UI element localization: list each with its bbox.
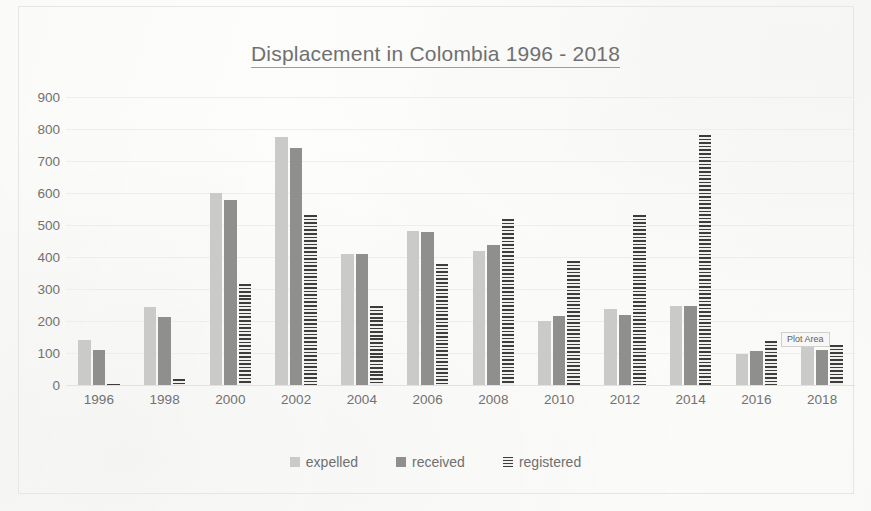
y-axis-tick-label: 800 bbox=[18, 122, 60, 137]
bar-expelled-2016[interactable] bbox=[736, 354, 749, 385]
legend-swatch-registered-icon bbox=[503, 457, 513, 467]
bar-group bbox=[144, 97, 186, 385]
bar-expelled-1996[interactable] bbox=[78, 340, 91, 385]
bar-expelled-1998[interactable] bbox=[144, 307, 157, 385]
bar-group bbox=[670, 97, 712, 385]
bar-group bbox=[736, 97, 778, 385]
bar-received-2010[interactable] bbox=[553, 316, 566, 385]
x-axis-tick-label: 2010 bbox=[544, 392, 574, 407]
bar-received-2014[interactable] bbox=[684, 306, 697, 385]
bar-group bbox=[341, 97, 383, 385]
bar-group bbox=[210, 97, 252, 385]
bar-registered-2004[interactable] bbox=[370, 306, 383, 385]
legend-item-expelled[interactable]: expelled bbox=[290, 454, 358, 470]
x-axis-tick-label: 2014 bbox=[676, 392, 706, 407]
x-axis-tick-label: 2008 bbox=[478, 392, 508, 407]
bar-expelled-2000[interactable] bbox=[210, 193, 223, 385]
legend-item-received[interactable]: received bbox=[396, 454, 465, 470]
bar-registered-2006[interactable] bbox=[436, 264, 449, 385]
y-axis-tick-label: 600 bbox=[18, 186, 60, 201]
chart-title-text: Displacement in Colombia 1996 - 2018 bbox=[251, 42, 620, 68]
bar-received-2018[interactable] bbox=[816, 350, 829, 385]
x-axis-tick-label: 2002 bbox=[281, 392, 311, 407]
bar-received-2002[interactable] bbox=[290, 148, 303, 385]
bar-registered-2018[interactable] bbox=[830, 345, 843, 385]
bar-registered-2014[interactable] bbox=[699, 135, 712, 385]
x-axis-tick-label: 2000 bbox=[215, 392, 245, 407]
legend-label: received bbox=[412, 454, 465, 470]
bar-registered-2008[interactable] bbox=[502, 219, 515, 385]
y-axis: 9008007006005004003002001000 bbox=[12, 97, 60, 385]
bar-group bbox=[604, 97, 646, 385]
y-axis-tick-label: 300 bbox=[18, 282, 60, 297]
bar-expelled-2006[interactable] bbox=[407, 231, 420, 385]
bar-registered-2000[interactable] bbox=[239, 284, 252, 385]
x-axis-tick-label: 2016 bbox=[741, 392, 771, 407]
legend-item-registered[interactable]: registered bbox=[503, 454, 581, 470]
legend-swatch-received-icon bbox=[396, 457, 406, 467]
bar-registered-2012[interactable] bbox=[633, 215, 646, 385]
bar-group bbox=[275, 97, 317, 385]
x-axis-tick-label: 2018 bbox=[807, 392, 837, 407]
x-axis-tick-label: 2004 bbox=[347, 392, 377, 407]
bar-received-2006[interactable] bbox=[421, 232, 434, 385]
legend-label: expelled bbox=[306, 454, 358, 470]
x-axis-tick-label: 1998 bbox=[150, 392, 180, 407]
chart-page: Displacement in Colombia 1996 - 2018 900… bbox=[0, 0, 871, 511]
bar-registered-2016[interactable] bbox=[765, 341, 778, 385]
x-axis: 1996199820002002200420062008201020122014… bbox=[66, 392, 855, 416]
y-axis-tick-label: 700 bbox=[18, 154, 60, 169]
bar-expelled-2010[interactable] bbox=[538, 321, 551, 385]
y-axis-tick-label: 500 bbox=[18, 218, 60, 233]
x-axis-tick-label: 2012 bbox=[610, 392, 640, 407]
bar-received-2008[interactable] bbox=[487, 245, 500, 385]
bar-received-2000[interactable] bbox=[224, 200, 237, 385]
legend-label: registered bbox=[519, 454, 581, 470]
bar-expelled-2018[interactable] bbox=[801, 347, 814, 385]
bar-received-2012[interactable] bbox=[619, 315, 632, 385]
bar-group bbox=[473, 97, 515, 385]
chart-legend: expelledreceivedregistered bbox=[0, 454, 871, 470]
y-axis-tick-label: 200 bbox=[18, 314, 60, 329]
axis-baseline bbox=[66, 385, 855, 386]
bar-expelled-2012[interactable] bbox=[604, 309, 617, 385]
bar-received-2016[interactable] bbox=[750, 351, 763, 385]
bar-registered-2010[interactable] bbox=[567, 261, 580, 385]
bar-registered-1996[interactable] bbox=[107, 384, 120, 386]
bar-group bbox=[538, 97, 580, 385]
bar-expelled-2004[interactable] bbox=[341, 254, 354, 385]
bar-group bbox=[407, 97, 449, 385]
bar-received-1998[interactable] bbox=[158, 317, 171, 385]
y-axis-tick-label: 400 bbox=[18, 250, 60, 265]
y-axis-tick-label: 0 bbox=[18, 378, 60, 393]
plot-area bbox=[66, 97, 855, 385]
bar-expelled-2002[interactable] bbox=[275, 137, 288, 385]
bar-expelled-2008[interactable] bbox=[473, 251, 486, 385]
x-axis-tick-label: 2006 bbox=[413, 392, 443, 407]
y-axis-tick-label: 900 bbox=[18, 90, 60, 105]
bar-registered-2002[interactable] bbox=[304, 215, 317, 385]
bar-received-1996[interactable] bbox=[93, 350, 106, 385]
chart-title: Displacement in Colombia 1996 - 2018 bbox=[0, 42, 871, 66]
plot-area-tooltip: Plot Area bbox=[781, 332, 830, 347]
legend-swatch-expelled-icon bbox=[290, 457, 300, 467]
x-axis-tick-label: 1996 bbox=[84, 392, 114, 407]
bar-registered-1998[interactable] bbox=[173, 379, 186, 385]
bar-received-2004[interactable] bbox=[356, 254, 369, 385]
bar-expelled-2014[interactable] bbox=[670, 306, 683, 385]
y-axis-tick-label: 100 bbox=[18, 346, 60, 361]
bar-group bbox=[78, 97, 120, 385]
